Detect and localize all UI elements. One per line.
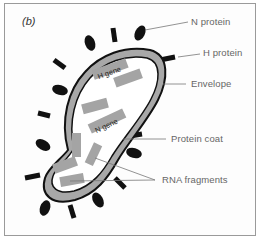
leader-h-protein: [178, 54, 200, 57]
leader-n-protein: [145, 22, 188, 30]
virus-diagram: H gene N gene: [0, 0, 261, 240]
rna-fragment: [72, 133, 81, 157]
label-h-protein: H protein: [203, 47, 242, 58]
label-rna-fragments: RNA fragments: [162, 174, 228, 185]
label-envelope: Envelope: [191, 78, 231, 89]
label-n-protein: N protein: [191, 16, 230, 27]
label-protein-coat: Protein coat: [171, 133, 223, 144]
